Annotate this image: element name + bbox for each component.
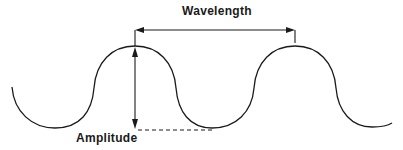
amplitude-label: Amplitude xyxy=(76,131,137,145)
wavelength-arrowhead-right-icon xyxy=(286,27,295,33)
amplitude-arrowhead-bottom-icon xyxy=(132,119,138,129)
wave-diagram: Wavelength Amplitude xyxy=(0,0,403,150)
wavelength-arrowhead-left-icon xyxy=(135,27,144,33)
wave-curve xyxy=(12,46,392,128)
wavelength-label: Wavelength xyxy=(182,4,252,18)
wave-diagram-svg xyxy=(0,0,403,150)
amplitude-arrowhead-top-icon xyxy=(132,47,138,57)
